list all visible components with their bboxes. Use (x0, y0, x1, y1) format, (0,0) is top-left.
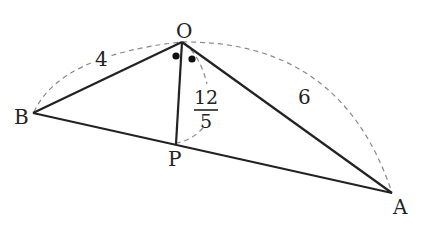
label-b: B (14, 105, 29, 129)
angle-mark-poa (188, 55, 195, 62)
angle-mark-bop (172, 52, 179, 59)
label-o: O (176, 19, 192, 43)
label-p: P (168, 147, 181, 171)
geometry-diagram: O B A P 4 6 12 5 (0, 0, 431, 238)
length-op-denominator: 5 (200, 110, 212, 132)
label-a: A (392, 195, 408, 219)
length-op-numerator: 12 (194, 86, 218, 108)
length-oa: 6 (298, 85, 311, 109)
arc-op-length-upper (184, 44, 207, 84)
length-ob: 4 (95, 47, 108, 71)
